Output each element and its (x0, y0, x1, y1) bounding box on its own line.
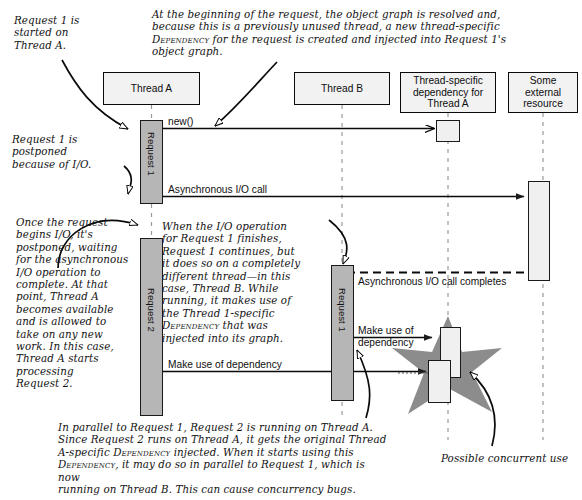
activation-request-1-thread-b[interactable] (331, 265, 354, 401)
leader-concurrency-bugs (357, 350, 370, 418)
activation-dependency-thread-a-use[interactable] (428, 360, 451, 403)
leader-object-graph (215, 62, 277, 126)
message-label-make-use-b: Make use of dependency (358, 325, 438, 348)
message-label-async-io-call: Asynchronous I/O call (168, 184, 267, 196)
activation-label-request-1-thread-b: Request 1 (337, 288, 348, 332)
activation-external-resource[interactable] (528, 181, 550, 281)
message-label-async-io-complete: Asynchronous I/O call completes (358, 276, 506, 288)
message-label-make-use-a: Make use of dependency (168, 359, 282, 371)
activation-label-request-1-thread-a: Request 1 (146, 132, 157, 176)
leader-request1-started (62, 60, 128, 129)
message-label-new-call: new() (168, 116, 193, 128)
activation-dependency-new[interactable] (436, 120, 460, 142)
sequence-diagram-canvas: Request 1 isstarted onThread A. At the b… (0, 0, 582, 500)
activation-label-request-2-thread-a: Request 2 (146, 288, 157, 332)
leader-thread-a-available (58, 221, 138, 268)
diagram-vector-layer (0, 0, 582, 500)
leader-request1-postponed (124, 166, 131, 194)
leader-continues-on-thread-b (329, 220, 347, 264)
